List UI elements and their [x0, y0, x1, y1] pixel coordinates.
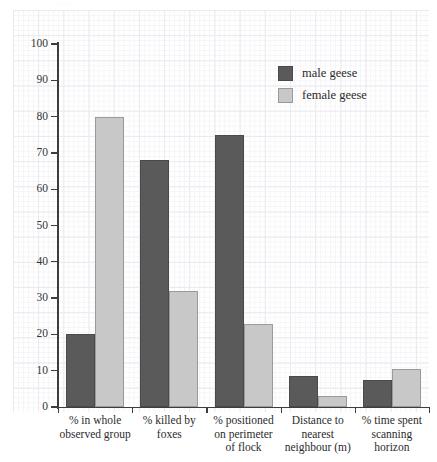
x-axis-category-label: % positionedon perimeterof flock — [202, 414, 284, 455]
bar-male-geese — [289, 376, 318, 407]
bar-female-geese — [392, 369, 421, 407]
bar-male-geese — [66, 334, 95, 407]
x-axis-category-label-line: % time spent — [351, 414, 433, 428]
y-axis-tick — [51, 189, 58, 190]
x-axis-category-label-line: neighbour (m) — [277, 441, 359, 455]
bar-male-geese — [140, 160, 169, 407]
y-axis-tick — [51, 370, 58, 371]
bar-male-geese — [363, 380, 392, 407]
y-axis-tick-label: 70 — [8, 147, 48, 159]
y-axis-tick-label: 50 — [8, 220, 48, 232]
y-axis-tick-label: 10 — [8, 365, 48, 377]
y-axis-tick — [51, 43, 58, 44]
x-axis-category-label-line: of flock — [202, 441, 284, 455]
y-axis-tick — [51, 334, 58, 335]
x-axis-category-label: % time spentscanninghorizon — [351, 414, 433, 455]
y-axis-tick-label: 90 — [8, 74, 48, 86]
x-axis-category-label-line: % positioned — [202, 414, 284, 428]
x-axis-tick — [58, 407, 59, 413]
x-axis-category-label-line: foxes — [128, 428, 210, 442]
bar-female-geese — [244, 324, 273, 407]
y-axis-tick-label: 80 — [8, 111, 48, 123]
y-axis-tick-label: 20 — [8, 328, 48, 340]
x-axis-category-label-line: % in whole — [54, 414, 136, 428]
legend-item-male-geese: male geese — [278, 64, 428, 83]
y-axis-tick-label: 40 — [8, 256, 48, 268]
x-axis-tick — [355, 407, 356, 413]
x-axis-category-label-line: horizon — [351, 441, 433, 455]
y-axis-tick-label: 100 — [8, 38, 48, 50]
y-axis-tick — [51, 80, 58, 81]
y-axis-tick — [51, 297, 58, 298]
x-axis-category-label: % killed byfoxes — [128, 414, 210, 441]
x-axis-tick — [206, 407, 207, 413]
legend-swatch-male-geese — [278, 66, 293, 81]
y-axis-tick-label: 0 — [8, 401, 48, 413]
x-axis-category-label-line: observed group — [54, 428, 136, 442]
x-axis-category-label-line: Distance to — [277, 414, 359, 428]
bar-chart: 0102030405060708090100 male geese female… — [0, 0, 437, 462]
y-axis-tick-label: 30 — [8, 292, 48, 304]
x-axis-tick — [281, 407, 282, 413]
y-axis-tick — [51, 116, 58, 117]
x-axis-category-label-line: on perimeter — [202, 428, 284, 442]
x-axis-category-label-line: % killed by — [128, 414, 210, 428]
bar-female-geese — [95, 117, 124, 407]
legend-label-female-geese: female geese — [302, 89, 367, 102]
chart-legend: male geese female geese — [278, 64, 428, 108]
bar-female-geese — [318, 396, 347, 407]
x-axis-category-label: % in wholeobserved group — [54, 414, 136, 441]
y-axis-tick — [51, 406, 58, 407]
legend-swatch-female-geese — [278, 88, 293, 103]
y-axis-tick — [51, 261, 58, 262]
x-axis-category-label-line: nearest — [277, 428, 359, 442]
x-axis-category-label-line: scanning — [351, 428, 433, 442]
x-axis-tick — [429, 407, 430, 413]
legend-item-female-geese: female geese — [278, 86, 428, 105]
y-axis-tick-label: 60 — [8, 183, 48, 195]
y-axis-tick — [51, 152, 58, 153]
x-axis-tick — [132, 407, 133, 413]
legend-label-male-geese: male geese — [302, 67, 357, 80]
y-axis-tick — [51, 225, 58, 226]
bar-male-geese — [215, 135, 244, 407]
x-axis-category-label: Distance tonearestneighbour (m) — [277, 414, 359, 455]
bar-female-geese — [169, 291, 198, 407]
